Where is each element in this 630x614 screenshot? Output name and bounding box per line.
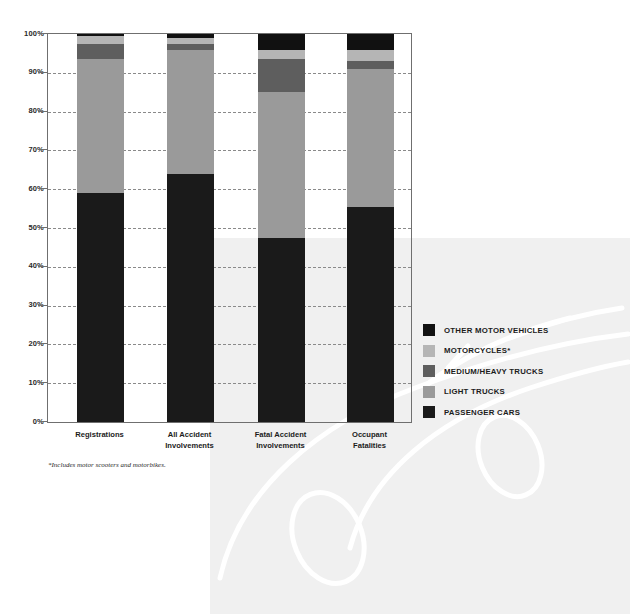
legend-label: MEDIUM/HEAVY TRUCKS: [444, 367, 543, 376]
bar-segment[interactable]: [347, 61, 394, 69]
y-axis-tick-mark: [38, 266, 47, 267]
bar-segment[interactable]: [347, 50, 394, 62]
y-axis-tick-mark: [38, 421, 47, 422]
y-axis-tick-mark: [38, 343, 47, 344]
legend-item[interactable]: PASSENGER CARS: [423, 402, 603, 423]
bar-segment[interactable]: [167, 50, 214, 174]
x-axis-label-line: Fatalities: [315, 441, 425, 452]
y-axis-tick-mark: [38, 188, 47, 189]
y-axis-tick-mark: [38, 227, 47, 228]
bar-segment[interactable]: [258, 50, 305, 60]
legend-swatch-icon: [423, 406, 435, 418]
legend-label: MOTORCYCLES*: [444, 346, 511, 355]
y-axis-tick-mark: [38, 33, 47, 34]
y-axis-tick-mark: [38, 111, 47, 112]
bar-segment[interactable]: [258, 238, 305, 422]
legend-swatch-icon: [423, 324, 435, 336]
bar-4[interactable]: [347, 34, 394, 422]
legend-item[interactable]: MOTORCYCLES*: [423, 341, 603, 362]
legend-swatch-icon: [423, 386, 435, 398]
bar-segment[interactable]: [167, 38, 214, 44]
bar-1[interactable]: [77, 34, 124, 422]
x-axis-label-4: OccupantFatalities: [315, 430, 425, 451]
plot-area: [47, 33, 412, 423]
legend-label: LIGHT TRUCKS: [444, 387, 505, 396]
bar-segment[interactable]: [167, 34, 214, 38]
y-axis-tick-mark: [38, 382, 47, 383]
bar-segment[interactable]: [77, 193, 124, 422]
legend-item[interactable]: OTHER MOTOR VEHICLES: [423, 320, 603, 341]
legend: OTHER MOTOR VEHICLESMOTORCYCLES*MEDIUM/H…: [423, 320, 603, 423]
legend-item[interactable]: LIGHT TRUCKS: [423, 382, 603, 403]
bar-segment[interactable]: [347, 69, 394, 207]
bar-2[interactable]: [167, 34, 214, 422]
legend-label: OTHER MOTOR VEHICLES: [444, 326, 549, 335]
y-axis-tick-mark: [38, 149, 47, 150]
y-axis-tick-mark: [38, 305, 47, 306]
bar-segment[interactable]: [347, 34, 394, 50]
bar-segment[interactable]: [167, 174, 214, 422]
bar-segment[interactable]: [258, 92, 305, 238]
bar-segment[interactable]: [167, 44, 214, 50]
y-axis-tick-mark: [38, 72, 47, 73]
footnote: *Includes motor scooters and motorbikes.: [48, 461, 166, 469]
bar-segment[interactable]: [77, 34, 124, 36]
legend-label: PASSENGER CARS: [444, 408, 520, 417]
legend-swatch-icon: [423, 365, 435, 377]
bar-segment[interactable]: [258, 34, 305, 50]
stacked-bar-chart: 0%10%20%30%40%50%60%70%80%90%100% Regist…: [0, 0, 630, 614]
bar-segment[interactable]: [258, 59, 305, 92]
legend-item[interactable]: MEDIUM/HEAVY TRUCKS: [423, 361, 603, 382]
bar-3[interactable]: [258, 34, 305, 422]
x-axis-label-line: Occupant: [315, 430, 425, 441]
bar-segment[interactable]: [77, 44, 124, 60]
legend-swatch-icon: [423, 345, 435, 357]
bar-segment[interactable]: [77, 36, 124, 44]
bar-segment[interactable]: [77, 59, 124, 193]
bar-segment[interactable]: [347, 207, 394, 422]
